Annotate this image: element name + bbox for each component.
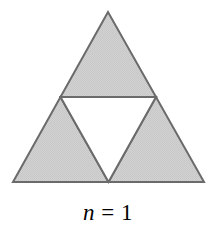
caption-variable: n <box>83 200 95 225</box>
caption-value: 1 <box>121 200 133 225</box>
caption-operator: = <box>101 200 114 225</box>
figure-caption: n = 1 <box>0 198 216 227</box>
sierpinski-triangle-graphic <box>0 0 216 195</box>
sierpinski-figure: n = 1 <box>0 0 216 227</box>
